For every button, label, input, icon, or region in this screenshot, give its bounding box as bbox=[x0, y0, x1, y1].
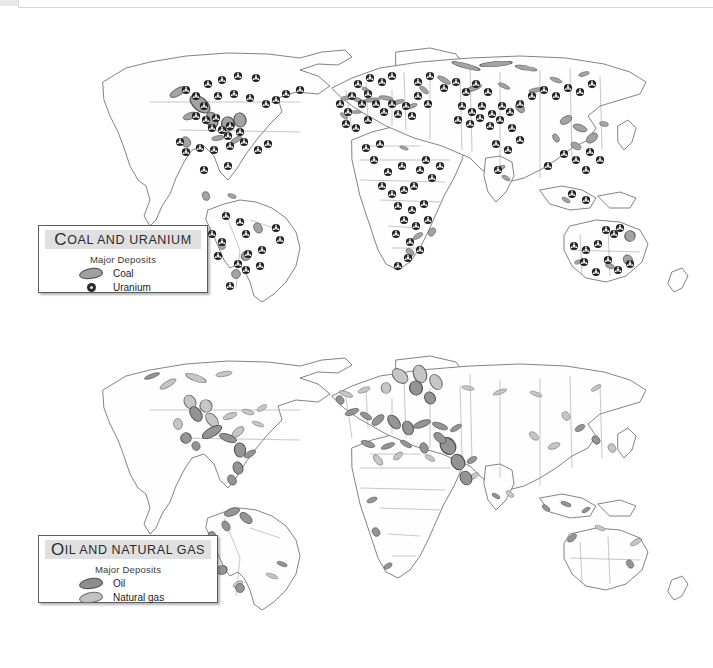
legend-title-initial-coal: C bbox=[54, 230, 67, 249]
legend-label-coal: Coal bbox=[113, 268, 134, 279]
legend-entry-natural-gas: Natural gas bbox=[45, 592, 211, 603]
panel-edge-shadow bbox=[0, 0, 20, 6]
legend-title-rest-coal: OAL AND URANIUM bbox=[67, 233, 192, 247]
oil-blob-icon bbox=[79, 578, 103, 589]
legend-subtitle-oil: Major Deposits bbox=[45, 564, 211, 575]
legend-title-coal: COAL AND URANIUM bbox=[45, 230, 201, 249]
cropped-white-panel bbox=[18, 0, 713, 8]
legend-label-uranium: Uranium bbox=[113, 282, 151, 293]
legend-title-rest-oil: IL AND NATURAL GAS bbox=[65, 543, 205, 557]
legend-entry-uranium: Uranium bbox=[45, 282, 201, 293]
legend-entry-oil: Oil bbox=[45, 578, 211, 589]
legend-entry-coal: Coal bbox=[45, 268, 201, 279]
legend-subtitle-coal: Major Deposits bbox=[45, 254, 201, 265]
legend-label-natural-gas: Natural gas bbox=[113, 592, 164, 603]
legend-label-oil: Oil bbox=[113, 578, 125, 589]
legend-coal-uranium: COAL AND URANIUM Major Deposits Coal Ura… bbox=[38, 225, 208, 293]
gas-blob-icon bbox=[79, 592, 103, 603]
coal-blob-icon bbox=[79, 268, 103, 279]
legend-title-initial-oil: O bbox=[51, 540, 65, 559]
uranium-dot-icon bbox=[79, 282, 103, 293]
legend-title-oil: OIL AND NATURAL GAS bbox=[45, 540, 211, 559]
legend-oil-natural-gas: OIL AND NATURAL GAS Major Deposits Oil N… bbox=[38, 535, 218, 603]
